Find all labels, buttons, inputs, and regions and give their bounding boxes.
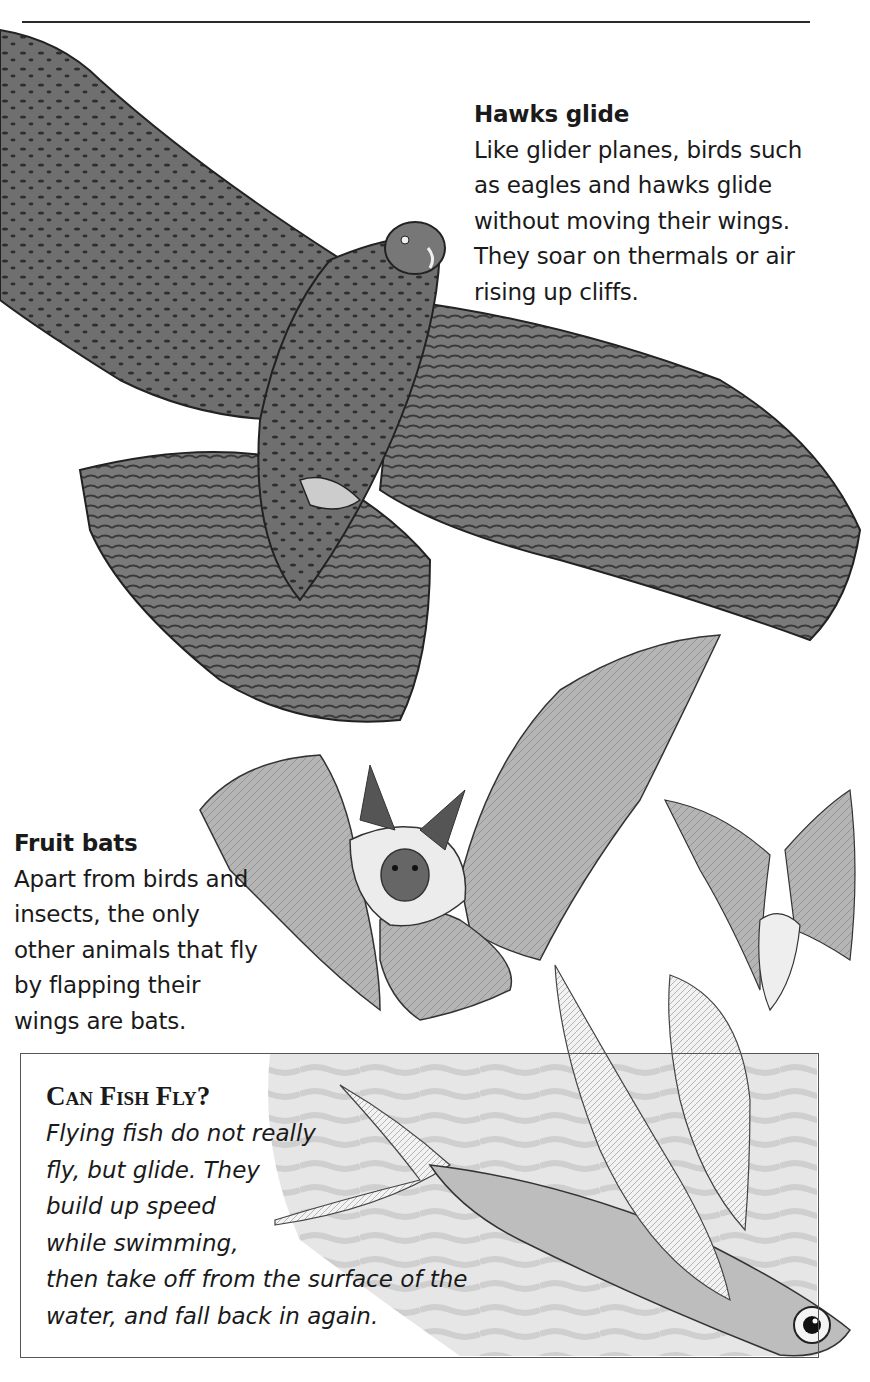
hawk-text-line: as eagles and hawks glide <box>474 168 802 204</box>
fish-text-line: water, and fall back in again. <box>46 1298 467 1335</box>
hawk-text-line: Like glider planes, birds such <box>474 133 802 169</box>
hawk-text-line: rising up cliffs. <box>474 275 802 311</box>
hawk-text-line: without moving their wings. <box>474 204 802 240</box>
bat-caption: Fruit bats Apart from birds and insects,… <box>14 826 258 1039</box>
hawk-title: Hawks glide <box>474 97 802 133</box>
bat-title: Fruit bats <box>14 826 258 862</box>
bat-text-line: insects, the only <box>14 897 258 933</box>
hawk-text-line: They soar on thermals or air <box>474 239 802 275</box>
fish-text-line: while swimming, <box>46 1225 467 1262</box>
small-bat-illustration <box>665 790 855 1010</box>
fish-text-line: fly, but glide. They <box>46 1152 467 1189</box>
bat-text-line: by flapping their <box>14 968 258 1004</box>
bat-text-line: other animals that fly <box>14 933 258 969</box>
fish-caption: Can Fish Fly? Flying fish do not really … <box>46 1077 467 1334</box>
hawk-caption: Hawks glide Like glider planes, birds su… <box>474 97 802 310</box>
fish-text-line: Flying fish do not really <box>46 1115 467 1152</box>
bat-text-line: wings are bats. <box>14 1004 258 1040</box>
bat-text-line: Apart from birds and <box>14 862 258 898</box>
fish-text-line: then take off from the surface of the <box>46 1261 467 1298</box>
fish-box-title: Can Fish Fly? <box>46 1077 467 1115</box>
fish-text-line: build up speed <box>46 1188 467 1225</box>
